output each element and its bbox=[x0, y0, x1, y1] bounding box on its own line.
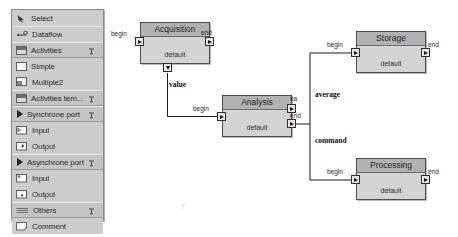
diagram-canvas[interactable]: Acquisition default begin end value Anal… bbox=[0, 0, 458, 237]
node-default-label: default bbox=[357, 187, 425, 194]
port-acquisition-value-out[interactable] bbox=[163, 63, 172, 72]
edge-label-value: value bbox=[169, 80, 186, 89]
node-body: default bbox=[223, 110, 291, 136]
port-storage-begin[interactable] bbox=[351, 48, 360, 57]
port-label-analysis-begin: begin bbox=[193, 105, 209, 112]
node-body: default bbox=[357, 46, 425, 72]
port-storage-end[interactable] bbox=[421, 48, 430, 57]
port-label-processing-begin: begin bbox=[327, 168, 343, 175]
canvas-artifact-glyph: T bbox=[181, 203, 185, 210]
port-processing-begin[interactable] bbox=[351, 175, 360, 184]
port-label-analysis-end: end bbox=[290, 112, 301, 119]
port-label-storage-end: end bbox=[428, 41, 439, 48]
edge-label-command: command bbox=[315, 136, 347, 145]
node-body: default bbox=[141, 37, 209, 63]
node-analysis[interactable]: Analysis default bbox=[222, 95, 292, 137]
port-analysis-end[interactable] bbox=[287, 119, 296, 128]
node-storage[interactable]: Storage default bbox=[356, 31, 426, 73]
port-label-storage-begin: begin bbox=[327, 41, 343, 48]
node-default-label: default bbox=[357, 60, 425, 67]
node-default-label: default bbox=[141, 51, 209, 58]
port-processing-end[interactable] bbox=[421, 175, 430, 184]
port-label-acquisition-begin: begin bbox=[111, 30, 127, 37]
node-title: Processing bbox=[357, 159, 425, 173]
node-processing[interactable]: Processing default bbox=[356, 158, 426, 200]
edge-label-average: average bbox=[315, 90, 340, 99]
node-body: default bbox=[357, 173, 425, 199]
port-label-analysis-na: na bbox=[290, 95, 297, 102]
node-default-label: default bbox=[223, 124, 291, 131]
port-acquisition-begin[interactable] bbox=[135, 37, 144, 46]
port-acquisition-end[interactable] bbox=[205, 37, 214, 46]
port-label-processing-end: end bbox=[428, 168, 439, 175]
port-label-acquisition-end: end bbox=[201, 29, 212, 36]
port-analysis-begin[interactable] bbox=[217, 112, 226, 121]
node-title: Storage bbox=[357, 32, 425, 46]
node-title: Analysis bbox=[223, 96, 291, 110]
node-acquisition[interactable]: Acquisition default bbox=[140, 22, 210, 64]
node-title: Acquisition bbox=[141, 23, 209, 37]
